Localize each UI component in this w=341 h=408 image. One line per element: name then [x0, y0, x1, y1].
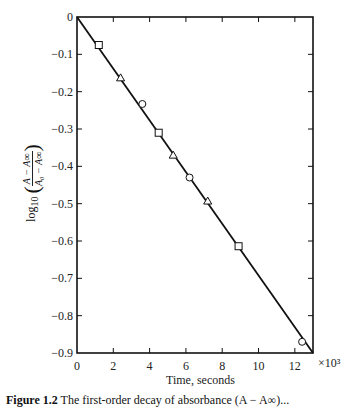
y-axis-title: log10 (A − A∞A₀ − A∞) [19, 83, 41, 283]
circle-marker [299, 338, 306, 345]
y-tick-label: −0.2 [51, 85, 73, 99]
y-tick-label: −0.9 [51, 346, 73, 360]
circle-marker [139, 100, 146, 107]
y-tick-label: −0.6 [51, 234, 73, 248]
x-tick-label: 10 [253, 359, 265, 373]
caption-label: Figure 1.2 [6, 393, 58, 407]
y-tick-label: −0.7 [51, 271, 73, 285]
y-label-log: log [24, 207, 38, 222]
triangle-marker [169, 151, 177, 158]
x-tick-label: 6 [183, 359, 189, 373]
square-marker [155, 129, 162, 136]
fit-line [77, 17, 313, 353]
figure-caption: Figure 1.2 The first-order decay of abso… [6, 393, 289, 408]
y-label-numerator: A − A∞ [21, 151, 33, 186]
x-tick-label: 12 [289, 359, 301, 373]
square-marker [95, 42, 102, 49]
x-tick-label: 2 [110, 359, 116, 373]
x-tick-label: 4 [147, 359, 153, 373]
y-label-sub: 10 [29, 197, 40, 207]
x-tick-label: 0 [74, 359, 80, 373]
caption-text: The first-order decay of absorbance (A −… [58, 393, 289, 407]
x-tick-label: 8 [219, 359, 225, 373]
y-tick-label: −0.4 [51, 159, 73, 173]
square-marker [235, 243, 242, 250]
y-tick-label: −0.8 [51, 309, 73, 323]
x-axis-multiplier: ×10³ [318, 356, 340, 371]
y-tick-label: −0.5 [51, 197, 73, 211]
y-label-denominator: A₀ − A∞ [33, 152, 44, 186]
circle-marker [186, 174, 193, 181]
y-tick-label: 0 [67, 10, 73, 24]
x-axis-title: Time, seconds [0, 373, 341, 388]
y-tick-label: −0.3 [51, 122, 73, 136]
y-tick-label: −0.1 [51, 47, 73, 61]
